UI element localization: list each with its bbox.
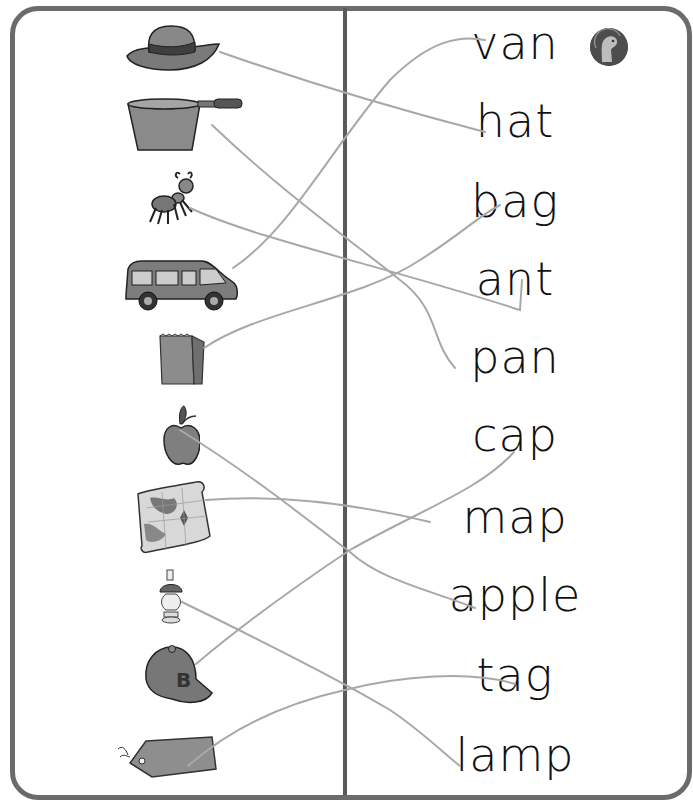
word-tag[interactable]: tag	[350, 652, 680, 698]
pictures-column: B	[0, 0, 345, 801]
map-picture[interactable]	[136, 478, 214, 558]
word-map[interactable]: map	[350, 494, 680, 540]
word-van[interactable]: van	[350, 20, 680, 66]
word-cap[interactable]: cap	[350, 412, 680, 458]
van-picture[interactable]	[122, 255, 240, 313]
word-apple[interactable]: apple	[350, 572, 680, 618]
word-lamp[interactable]: lamp	[350, 732, 680, 778]
cap-picture[interactable]: B	[142, 645, 214, 709]
apple-picture[interactable]	[162, 404, 200, 468]
cap-letter: B	[176, 668, 191, 692]
tag-picture[interactable]	[116, 735, 220, 779]
pan-picture[interactable]	[126, 98, 244, 154]
lamp-picture[interactable]	[154, 568, 188, 632]
word-bag[interactable]: bag	[350, 178, 680, 224]
word-hat[interactable]: hat	[350, 98, 680, 144]
ant-picture[interactable]	[146, 170, 198, 228]
word-ant[interactable]: ant	[350, 256, 680, 302]
word-pan[interactable]: pan	[350, 334, 680, 380]
words-column: van hat bag ant pan cap map apple tag la…	[350, 0, 680, 801]
bag-picture[interactable]	[156, 332, 208, 388]
hat-picture[interactable]	[125, 20, 221, 74]
